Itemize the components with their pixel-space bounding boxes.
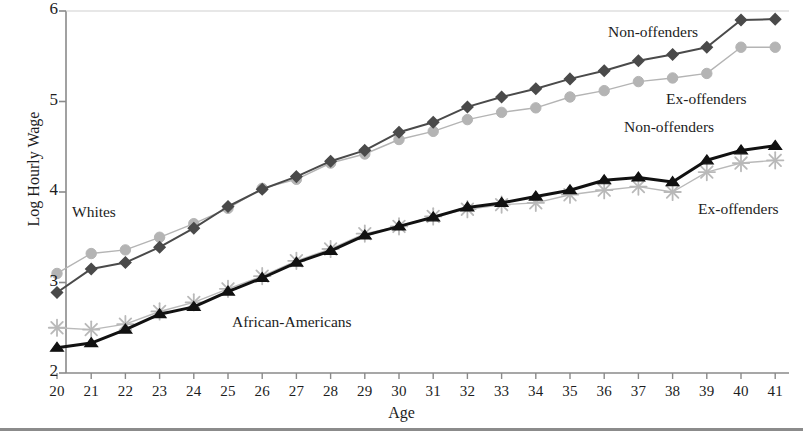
data-point-diamond xyxy=(770,14,781,25)
series-diamond xyxy=(52,14,781,298)
data-point-circle xyxy=(496,107,506,117)
data-point-diamond xyxy=(667,49,678,60)
data-point-diamond xyxy=(428,117,439,128)
annotation-african_americans: African-Americans xyxy=(232,313,352,331)
y-tick-label-5: 5 xyxy=(18,90,58,110)
x-tick-label-40: 40 xyxy=(723,383,759,400)
x-tick-label-25: 25 xyxy=(210,383,246,400)
y-tick-label-4: 4 xyxy=(18,180,58,200)
x-tick-label-21: 21 xyxy=(73,383,109,400)
data-point-circle xyxy=(736,42,746,52)
x-tick-label-39: 39 xyxy=(689,383,725,400)
x-tick-label-35: 35 xyxy=(552,383,588,400)
chart-figure: Log Hourly Wage Age 20212223242526272829… xyxy=(0,0,803,432)
x-tick-label-37: 37 xyxy=(620,383,656,400)
x-tick-label-31: 31 xyxy=(415,383,451,400)
data-point-circle xyxy=(120,245,130,255)
figure-bottom-rule xyxy=(0,428,803,431)
y-tick-label-2: 2 xyxy=(18,361,58,381)
data-point-diamond xyxy=(154,242,165,253)
data-point-circle xyxy=(599,85,609,95)
y-tick-label-3: 3 xyxy=(18,271,58,291)
data-point-circle xyxy=(667,73,677,83)
data-point-diamond xyxy=(565,73,576,84)
x-tick-label-26: 26 xyxy=(244,383,280,400)
x-tick-label-29: 29 xyxy=(347,383,383,400)
data-point-diamond xyxy=(496,92,507,103)
data-point-circle xyxy=(633,76,643,86)
annotation-whites: Whites xyxy=(72,203,116,221)
data-point-diamond xyxy=(462,102,473,113)
annotation-aa_exoff: Ex-offenders xyxy=(698,200,779,218)
data-point-triangle xyxy=(769,140,782,149)
annotation-whites_nonoff: Non-offenders xyxy=(608,23,698,41)
data-point-circle xyxy=(462,114,472,124)
plot-area xyxy=(0,0,803,432)
x-tick-label-34: 34 xyxy=(518,383,554,400)
annotation-aa_nonoff: Non-offenders xyxy=(624,118,714,136)
x-tick-label-41: 41 xyxy=(757,383,793,400)
data-point-circle xyxy=(702,68,712,78)
x-tick-label-36: 36 xyxy=(586,383,622,400)
y-tick-label-6: 6 xyxy=(18,0,58,19)
data-point-circle xyxy=(86,248,96,258)
x-tick-label-30: 30 xyxy=(381,383,417,400)
x-tick-label-20: 20 xyxy=(39,383,75,400)
x-tick-label-32: 32 xyxy=(449,383,485,400)
x-tick-label-27: 27 xyxy=(278,383,314,400)
data-point-diamond xyxy=(599,65,610,76)
x-tick-label-28: 28 xyxy=(313,383,349,400)
annotation-whites_exoff: Ex-offenders xyxy=(666,90,747,108)
data-point-diamond xyxy=(633,55,644,66)
data-point-diamond xyxy=(120,257,131,268)
x-tick-label-33: 33 xyxy=(484,383,520,400)
x-tick-label-22: 22 xyxy=(107,383,143,400)
data-point-circle xyxy=(565,92,575,102)
data-point-diamond xyxy=(530,83,541,94)
x-tick-label-23: 23 xyxy=(142,383,178,400)
data-point-circle xyxy=(770,42,780,52)
series-line xyxy=(57,19,775,292)
data-point-circle xyxy=(531,103,541,113)
x-tick-label-24: 24 xyxy=(176,383,212,400)
x-tick-label-38: 38 xyxy=(655,383,691,400)
